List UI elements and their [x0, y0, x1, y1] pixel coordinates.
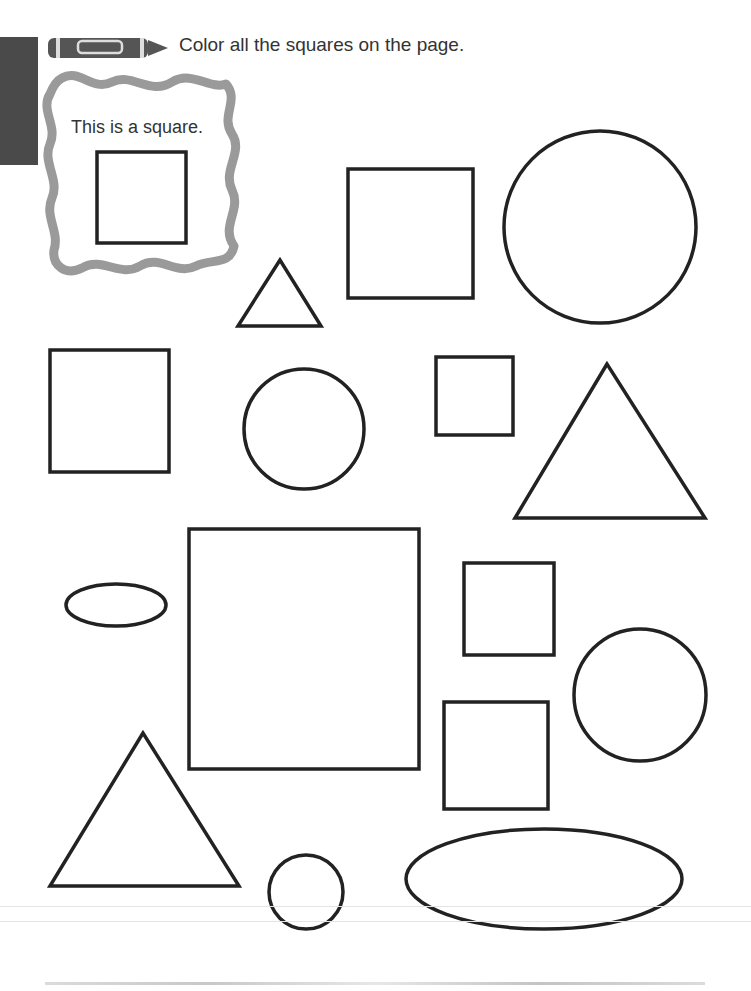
triangle-small[interactable]: [238, 260, 321, 326]
oval-large[interactable]: [406, 829, 682, 929]
square-6[interactable]: [444, 702, 548, 809]
square-3[interactable]: [436, 357, 513, 435]
square-1[interactable]: [348, 169, 473, 298]
triangle-large[interactable]: [515, 364, 705, 518]
circle-right[interactable]: [574, 629, 706, 761]
circle-medium[interactable]: [244, 369, 364, 489]
triangle-bottom[interactable]: [50, 733, 239, 886]
square-5[interactable]: [464, 563, 554, 655]
square-2[interactable]: [50, 350, 169, 472]
square-4[interactable]: [189, 529, 419, 769]
circle-small[interactable]: [269, 855, 343, 929]
oval-small[interactable]: [66, 584, 166, 626]
worksheet-shapes: [0, 0, 751, 991]
scan-fold-line: [0, 906, 751, 907]
circle-large[interactable]: [504, 131, 696, 323]
example-label: This is a square.: [71, 117, 203, 138]
scan-fold-line: [0, 921, 751, 922]
example-square: [97, 152, 186, 243]
scan-artifact: [45, 982, 705, 985]
